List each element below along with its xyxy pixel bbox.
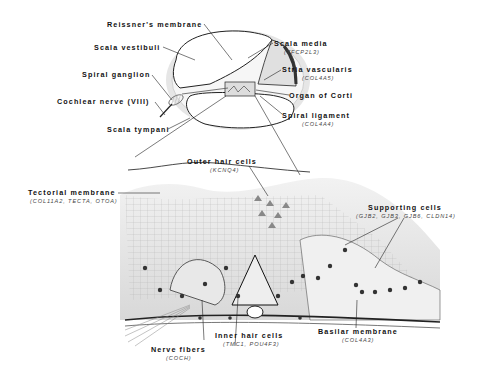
label-scala-tympani: Scala tympani [107, 126, 170, 133]
organ-of-corti-detail [120, 162, 440, 346]
label-spiral-ligament: Spiral ligament [282, 112, 350, 119]
gene-supporting-cells: (GJB2, GJB3, GJB6, CLDN14) [356, 214, 456, 220]
gene-nerve-fibers: (COCH) [166, 356, 192, 362]
gene-stria-vascularis: (COL4A5) [302, 76, 334, 82]
gene-basilar-membrane: (COL4A3) [342, 338, 374, 344]
label-supporting-cells: Supporting cells [368, 204, 442, 211]
gene-outer-hair-cells: (KCNQ4) [210, 168, 239, 174]
label-basilar-membrane: Basilar membrane [318, 328, 398, 335]
gene-tectorial-membrane: (COL11A2, TECTA, OTOA) [30, 199, 118, 205]
label-stria-vascularis: Stria vascularis [282, 66, 353, 73]
label-scala-media: Scala media [274, 40, 328, 47]
label-tectorial-membrane: Tectorial membrane [28, 189, 116, 196]
gene-spiral-ligament: (COL4A4) [302, 122, 334, 128]
gene-inner-hair-cells: (TMC1, POU4F3) [223, 342, 279, 348]
label-spiral-ganglion: Spiral ganglion [82, 71, 150, 78]
label-outer-hair-cells: Outer hair cells [187, 158, 257, 165]
label-organ-of-corti: Organ of Corti [289, 92, 353, 99]
label-scala-vestibuli: Scala vestibuli [94, 44, 160, 51]
gene-scala-media: (TFCP2L3) [284, 50, 320, 56]
label-reissners-membrane: Reissner's membrane [107, 21, 202, 28]
label-inner-hair-cells: Inner hair cells [215, 332, 283, 339]
label-cochlear-nerve: Cochlear nerve (VIII) [57, 98, 150, 105]
label-nerve-fibers: Nerve fibers [151, 346, 206, 353]
